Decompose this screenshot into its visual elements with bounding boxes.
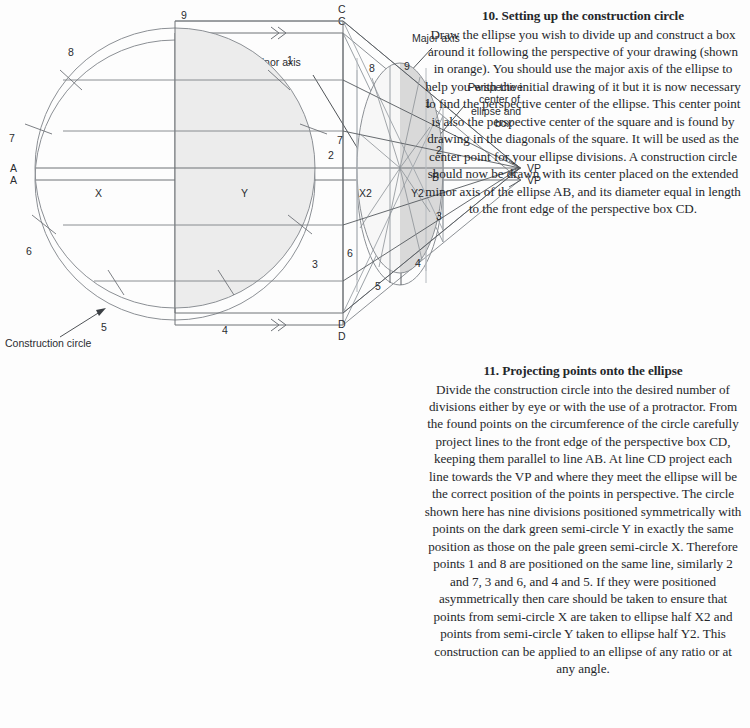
circle-point-9: 9 xyxy=(181,9,187,21)
circle-point-6: 6 xyxy=(26,245,32,257)
ellipse-point-4: 4 xyxy=(415,257,421,269)
circle-point-2: 2 xyxy=(328,149,334,161)
ellipse-point-8: 8 xyxy=(369,62,375,74)
section-10-heading: 10. Setting up the construction circle xyxy=(424,7,742,25)
illustration-page: A B C D VP Minor axis Major axis Perspec… xyxy=(0,0,750,728)
section-10-text: 10. Setting up the construction circle D… xyxy=(424,7,742,218)
label-x2: X2 xyxy=(359,187,372,199)
section-11-heading: 11. Projecting points onto the ellipse xyxy=(424,362,742,380)
section-10-body: Draw the ellipse you wish to divide up a… xyxy=(424,26,742,218)
label-x: X xyxy=(95,187,102,199)
tick-5 xyxy=(108,270,124,295)
circle-point-1: 1 xyxy=(287,54,293,66)
circle-point-4: 4 xyxy=(222,324,228,336)
circle-point-8: 8 xyxy=(68,46,74,58)
circle-point-5: 5 xyxy=(101,321,107,333)
label-y2: Y2 xyxy=(411,187,424,199)
label-y: Y xyxy=(241,187,248,199)
ellipse-point-5: 5 xyxy=(375,280,381,292)
ellipse-point-6: 6 xyxy=(347,247,353,259)
tick-7 xyxy=(25,124,52,134)
section-11-body: Divide the construction circle into the … xyxy=(424,381,742,678)
ellipse-point-7: 7 xyxy=(337,134,343,146)
label-a-bottom: A xyxy=(10,162,17,174)
circle-point-7: 7 xyxy=(9,132,15,144)
label-c-bottom: C xyxy=(338,3,346,15)
circle-point-3: 3 xyxy=(312,258,318,270)
section-11-text: 11. Projecting points onto the ellipse D… xyxy=(424,362,742,678)
label-d-bottom: D xyxy=(338,318,346,330)
ellipse-point-9: 9 xyxy=(404,60,410,72)
